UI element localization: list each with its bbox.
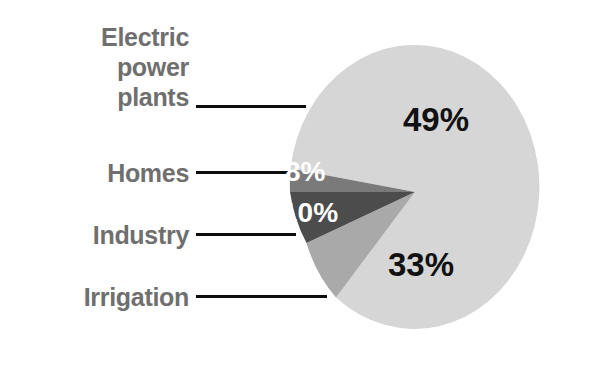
pie-chart-figure: Electric power plants Homes Industry Irr…	[0, 0, 589, 367]
pie-label-industry: Industry	[0, 220, 189, 250]
pie-label-irrigation: Irrigation	[0, 282, 189, 312]
pie-label-electric-power-plants: Electric power plants	[0, 22, 189, 112]
pie-label-homes: Homes	[0, 158, 189, 188]
